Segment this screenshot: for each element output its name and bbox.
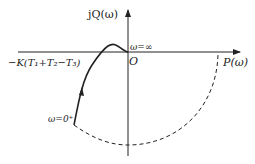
real-axis-label: P(ω) xyxy=(222,56,248,69)
imag-axis-label: jQ(ω) xyxy=(86,8,118,21)
intercept-label: −K(T₁+T₂−T₃) xyxy=(8,57,81,68)
omega-zero-label: ω=0⁺ xyxy=(48,114,74,124)
direction-arrow-icon xyxy=(79,87,84,96)
dashed-closure-curve xyxy=(74,52,218,145)
nyquist-curve xyxy=(74,44,128,125)
omega-inf-label: ω=∞ xyxy=(130,42,152,52)
nyquist-diagram: jQ(ω) P(ω) O ω=∞ ω=0⁺ −K(T₁+T₂−T₃) xyxy=(0,0,255,164)
origin-label: O xyxy=(129,55,138,68)
